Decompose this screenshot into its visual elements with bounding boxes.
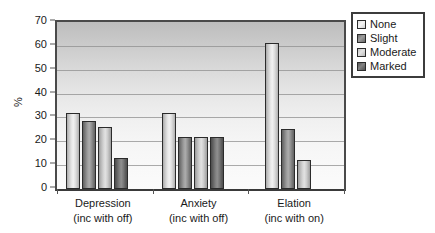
x-axis-tick-marks bbox=[55, 189, 346, 195]
y-tick-label: 70 bbox=[35, 15, 47, 26]
y-tick-label: 30 bbox=[35, 110, 47, 121]
x-group-sublabel-text: (inc with off) bbox=[169, 211, 228, 226]
slight-swatch bbox=[357, 34, 366, 43]
y-axis-tick-labels: 706050403020100 bbox=[24, 20, 50, 187]
bars-layer bbox=[57, 22, 344, 189]
bar bbox=[114, 158, 128, 189]
plot-area bbox=[55, 20, 346, 191]
legend-item: Marked bbox=[357, 59, 420, 73]
x-axis-group-labels: Depression(inc with off)Anxiety(inc with… bbox=[55, 196, 346, 230]
x-tick-mark bbox=[248, 189, 249, 194]
x-group-label-text: Anxiety bbox=[180, 197, 216, 209]
bar bbox=[98, 127, 112, 189]
y-tick-label: 60 bbox=[35, 38, 47, 49]
x-tick-mark bbox=[57, 189, 58, 194]
bar bbox=[178, 137, 192, 189]
bar bbox=[162, 113, 176, 189]
bar bbox=[265, 43, 279, 189]
x-group-label: Elation(inc with on) bbox=[265, 196, 324, 226]
x-tick-mark bbox=[344, 189, 345, 194]
legend-item: Moderate bbox=[357, 45, 420, 59]
bar bbox=[66, 113, 80, 189]
marked-swatch bbox=[357, 62, 366, 71]
x-group-label-text: Depression bbox=[75, 197, 131, 209]
bar bbox=[297, 160, 311, 189]
legend-item-label: None bbox=[370, 19, 396, 30]
x-group-label-text: Elation bbox=[277, 197, 311, 209]
legend-item-label: Marked bbox=[370, 61, 407, 72]
bar-chart: % 706050403020100 Depression(inc with of… bbox=[0, 0, 435, 233]
bar bbox=[281, 129, 295, 189]
bar bbox=[194, 137, 208, 189]
bar bbox=[210, 137, 224, 189]
none-swatch bbox=[357, 20, 366, 29]
x-group-label: Anxiety(inc with off) bbox=[169, 196, 228, 226]
legend-item: Slight bbox=[357, 31, 420, 45]
legend-item-label: Slight bbox=[370, 33, 398, 44]
legend: NoneSlightModerateMarked bbox=[351, 12, 425, 78]
y-tick-label: 10 bbox=[35, 158, 47, 169]
x-group-sublabel-text: (inc with off) bbox=[73, 211, 132, 226]
legend-item: None bbox=[357, 17, 420, 31]
y-axis-title: % bbox=[12, 90, 24, 114]
x-tick-mark bbox=[153, 189, 154, 194]
y-tick-label: 40 bbox=[35, 86, 47, 97]
y-tick-label: 0 bbox=[41, 182, 47, 193]
legend-item-label: Moderate bbox=[370, 47, 416, 58]
moderate-swatch bbox=[357, 48, 366, 57]
y-tick-label: 20 bbox=[35, 134, 47, 145]
x-group-sublabel-text: (inc with on) bbox=[265, 211, 324, 226]
x-group-label: Depression(inc with off) bbox=[73, 196, 132, 226]
bar bbox=[82, 121, 96, 189]
y-tick-label: 50 bbox=[35, 62, 47, 73]
